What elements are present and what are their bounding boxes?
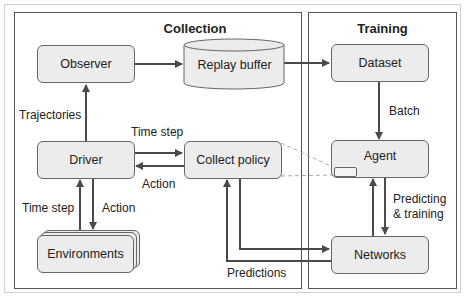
label-predicting-training-2: & training xyxy=(393,207,444,221)
collect-policy-node: Collect policy xyxy=(184,141,282,179)
label-predicting-training-1: Predicting xyxy=(393,192,446,206)
label-action-policy-driver: Action xyxy=(142,177,175,191)
label-batch: Batch xyxy=(389,104,420,118)
label-predictions: Predictions xyxy=(227,266,286,280)
observer-node: Observer xyxy=(37,45,135,83)
label-trajectories: Trajectories xyxy=(19,108,81,122)
environments-node: Environments xyxy=(37,235,134,273)
label-action-driver-env: Action xyxy=(102,201,135,215)
agent-policy-slot xyxy=(334,167,357,177)
dataset-node: Dataset xyxy=(331,44,429,82)
networks-node: Networks xyxy=(331,236,429,274)
replay-buffer-node: Replay buffer xyxy=(183,58,286,72)
driver-node: Driver xyxy=(37,141,135,179)
label-time-step-driver-policy: Time step xyxy=(131,125,183,139)
label-time-step-env-driver: Time step xyxy=(22,201,74,215)
